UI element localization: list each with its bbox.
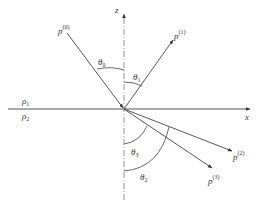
svg-text:θ2: θ2 [140, 172, 147, 183]
x-axis-label: x [244, 112, 249, 122]
svg-text:θ3: θ3 [131, 147, 138, 158]
svg-text:θ0: θ0 [98, 57, 105, 68]
svg-text:p(3): p(3) [207, 174, 220, 186]
incident-wave-ray [67, 33, 123, 108]
medium-upper-label: ρ1 [21, 96, 29, 107]
theta3-arc [124, 126, 147, 144]
theta0-arc [97, 68, 124, 70]
svg-text:p(1): p(1) [173, 29, 186, 41]
svg-text:ρ1: ρ1 [21, 96, 29, 107]
reflected-wave-ray [124, 40, 173, 109]
transmitted-wave-3-label: p(3) [207, 174, 220, 186]
wave-reflection-refraction-diagram: x z ρ1 ρ2 p(0) p(1) p(2) p(3) θ0 θ1 θ3 θ… [0, 0, 259, 208]
theta0-label: θ0 [98, 57, 105, 68]
svg-text:ρ2: ρ2 [21, 111, 29, 122]
z-axis-label: z [114, 5, 119, 15]
reflected-wave-label: p(1) [173, 29, 186, 41]
theta3-label: θ3 [131, 147, 138, 158]
svg-text:p(2): p(2) [232, 150, 245, 162]
theta1-label: θ1 [133, 72, 140, 83]
transmitted-wave-2-label: p(2) [232, 150, 245, 162]
medium-lower-label: ρ2 [21, 111, 29, 122]
theta2-label: θ2 [140, 172, 147, 183]
svg-text:θ1: θ1 [133, 72, 140, 83]
